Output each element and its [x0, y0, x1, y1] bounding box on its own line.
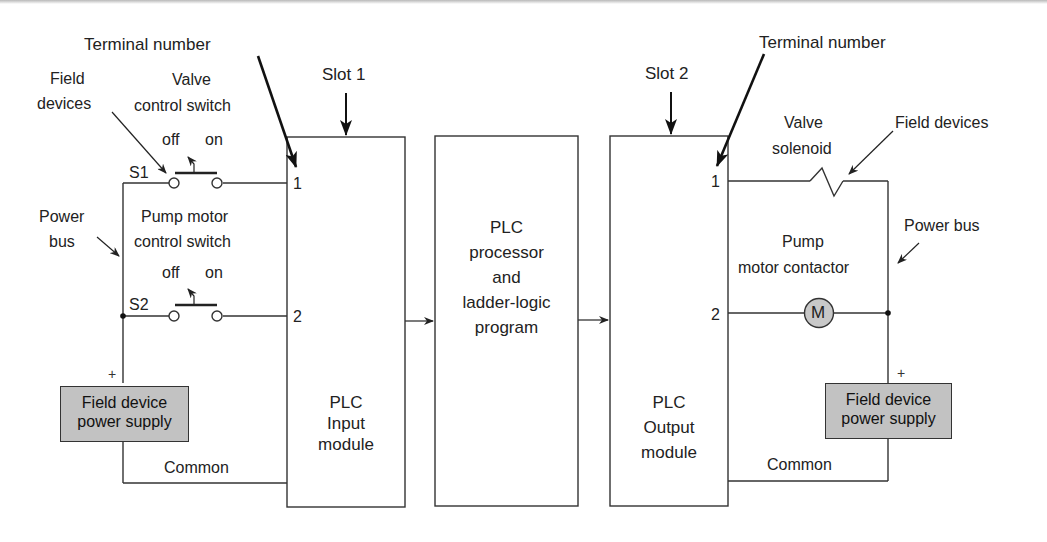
input-module-line2: Input — [287, 413, 405, 434]
right-common-label: Common — [767, 455, 832, 475]
pump-switch-label-line1: Pump motor — [141, 207, 228, 227]
s2-actuator-arrow — [188, 289, 194, 304]
s2-label: S2 — [129, 295, 149, 315]
s2-contact-left — [169, 311, 179, 321]
s1-contact-left — [169, 178, 179, 188]
terminal-number-right-arrow — [717, 54, 764, 166]
terminal-number-right-label: Terminal number — [759, 32, 886, 53]
processor-label: PLC processor and ladder-logic program — [435, 215, 578, 340]
valve-solenoid-label-line1: Valve — [784, 113, 823, 133]
field-devices-left-label-line1: Field — [50, 69, 85, 89]
output-module-label: PLC Output module — [610, 390, 728, 465]
s1-label: S1 — [129, 163, 149, 183]
s1-on-label: on — [205, 130, 223, 150]
pump-contactor-label-line1: Pump — [782, 232, 824, 252]
output-terminal-1: 1 — [711, 173, 720, 191]
left-common-label: Common — [164, 458, 229, 478]
input-terminal-1: 1 — [293, 175, 302, 193]
left-psu-line2: power supply — [61, 412, 188, 431]
input-module-line3: module — [287, 434, 405, 455]
processor-line5: program — [435, 315, 578, 340]
power-bus-left-label-line2: bus — [49, 232, 75, 252]
right-psu-line1: Field device — [826, 390, 951, 409]
terminal-number-left-arrow — [258, 56, 296, 167]
left-field-device-power-supply: Field device power supply — [60, 386, 189, 442]
input-terminal-2: 2 — [293, 308, 302, 326]
s1-contact-right — [212, 178, 222, 188]
processor-line1: PLC — [435, 215, 578, 240]
right-psu-plus: + — [897, 366, 905, 380]
power-bus-left-label-line1: Power — [39, 207, 84, 227]
slot1-label: Slot 1 — [322, 64, 365, 85]
input-module-label: PLC Input module — [287, 392, 405, 455]
output-module-line2: Output — [610, 415, 728, 440]
output-module-line3: module — [610, 440, 728, 465]
s1-off-label: off — [162, 130, 180, 150]
right-psu-line2: power supply — [826, 409, 951, 428]
right-field-device-power-supply: Field device power supply — [825, 383, 952, 439]
valve-solenoid-label-line2: solenoid — [772, 139, 832, 159]
processor-line4: ladder-logic — [435, 290, 578, 315]
power-bus-left-arrow — [97, 237, 119, 256]
input-module-line1: PLC — [287, 392, 405, 413]
output-module-line1: PLC — [610, 390, 728, 415]
field-devices-right-label: Field devices — [895, 113, 988, 133]
valve-solenoid-symbol — [810, 168, 843, 196]
motor-symbol-label: M — [811, 303, 825, 323]
s2-off-label: off — [162, 263, 180, 283]
s1-actuator-arrow — [188, 157, 194, 172]
pump-switch-label-line2: control switch — [134, 232, 231, 252]
left-psu-plus: + — [108, 367, 116, 381]
field-devices-left-label-line2: devices — [37, 94, 91, 114]
slot2-label: Slot 2 — [645, 63, 688, 84]
left-junction-dot — [120, 313, 126, 319]
pump-contactor-label-line2: motor contactor — [738, 258, 849, 278]
valve-switch-label-line2: control switch — [134, 96, 231, 116]
power-bus-right-label: Power bus — [904, 216, 980, 236]
processor-line2: processor — [435, 240, 578, 265]
processor-line3: and — [435, 265, 578, 290]
power-bus-right-arrow — [898, 243, 919, 263]
field-devices-right-arrow — [849, 131, 893, 174]
s2-contact-right — [212, 311, 222, 321]
terminal-number-left-label: Terminal number — [84, 34, 211, 55]
right-junction-dot — [885, 310, 891, 316]
left-psu-line1: Field device — [61, 393, 188, 412]
output-terminal-2: 2 — [711, 306, 720, 324]
valve-switch-label-line1: Valve — [172, 70, 211, 90]
s2-on-label: on — [205, 263, 223, 283]
